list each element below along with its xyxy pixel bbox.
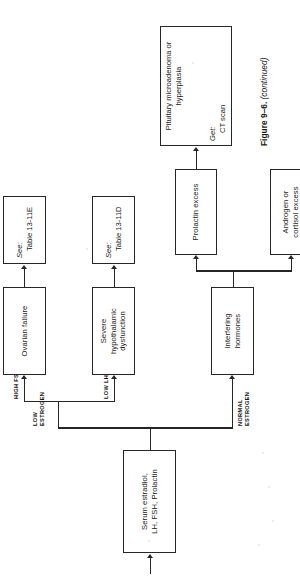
scan-artifact bbox=[192, 62, 194, 64]
ovarian-to-tableE-arrowhead bbox=[21, 265, 27, 269]
node-pituitary-get-value: CT scan bbox=[218, 105, 227, 141]
labs-out-stub bbox=[150, 428, 151, 450]
androgen-cortisol-connector bbox=[291, 258, 292, 272]
node-prolactin-excess-line1: Prolactin excess bbox=[191, 184, 201, 241]
node-interfering-hormones: Interfering hormones bbox=[211, 287, 254, 375]
low-lh-arrowhead bbox=[111, 375, 117, 379]
hypothalamic-to-tableD-connector bbox=[114, 268, 115, 287]
node-interfering-hormones-line1: Interfering bbox=[223, 313, 233, 348]
scan-artifact bbox=[24, 318, 26, 320]
figure-caption: Figure 9–6. (continued) bbox=[259, 58, 269, 146]
inbound-arrowhead bbox=[147, 554, 153, 558]
node-serum-labs-line1: Serum estradiol, bbox=[140, 473, 150, 530]
ref-table-13-11D-keyword: See: bbox=[104, 242, 114, 258]
node-serum-labs: Serum estradiol, LH, FSH, Prolactin bbox=[123, 450, 176, 553]
node-pituitary-line1: Pituitary microadenoma or bbox=[164, 42, 173, 131]
scan-artifact bbox=[148, 540, 150, 542]
ref-table-13-11D: See: Table 13-11D bbox=[92, 196, 135, 264]
ref-table-13-11D-value: Table 13-11D bbox=[114, 206, 124, 258]
prolactin-connector bbox=[196, 258, 197, 272]
edge-label-normal-estrogen-line2: ESTROGEN bbox=[244, 392, 250, 426]
flowchart-canvas: Serum estradiol, LH, FSH, Prolactin LOW … bbox=[0, 0, 300, 580]
interfering-split-vertical bbox=[196, 270, 292, 272]
node-pituitary-get: Get: CT scan bbox=[208, 31, 228, 141]
scan-artifact bbox=[86, 248, 88, 250]
high-fsh-connector bbox=[24, 378, 25, 403]
node-androgen-cortisol-excess-line2: cortisol excess bbox=[291, 186, 300, 237]
hypothalamic-to-tableD-arrowhead bbox=[111, 265, 117, 269]
rotated-figure-canvas: Serum estradiol, LH, FSH, Prolactin LOW … bbox=[0, 0, 300, 580]
edge-label-normal-estrogen: NORMAL ESTROGEN bbox=[237, 392, 251, 426]
prolactin-to-pituitary-arrowhead bbox=[193, 147, 199, 151]
edge-label-low-lh-text: LOW LH bbox=[103, 375, 109, 399]
scan-artifact bbox=[272, 520, 274, 522]
node-pituitary-line2: hyperplasia bbox=[174, 67, 183, 106]
ref-table-13-11E-value: Table 13-11E bbox=[25, 207, 35, 258]
edge-label-low-estrogen: LOW ESTROGEN bbox=[32, 392, 46, 426]
node-pituitary-microadenoma: Pituitary microadenoma or hyperplasia Ge… bbox=[160, 26, 232, 146]
scan-artifact bbox=[268, 486, 270, 488]
node-severe-hypothalamic-line1: Severe bbox=[99, 319, 109, 344]
node-ovarian-failure: Ovarian failure bbox=[3, 287, 46, 375]
node-interfering-hormones-line2: hormones bbox=[233, 314, 243, 349]
node-pituitary-get-keyword: Get: bbox=[208, 127, 217, 141]
node-severe-hypothalamic-dysfunction: Severe hypothalamic dysfunction bbox=[92, 287, 135, 375]
prolactin-arrowhead bbox=[193, 255, 199, 259]
node-severe-hypothalamic-line2: hypothalamic bbox=[109, 308, 119, 354]
edge-label-low-lh: LOW LH bbox=[103, 375, 110, 399]
androgen-cortisol-arrowhead bbox=[288, 255, 294, 259]
edge-label-low-estrogen-line2: ESTROGEN bbox=[39, 392, 45, 426]
ref-table-13-11E-keyword: See: bbox=[15, 242, 25, 258]
ref-table-13-11E: See: Table 13-11E bbox=[3, 196, 46, 264]
node-severe-hypothalamic-line3: dysfunction bbox=[118, 311, 128, 351]
edge-label-low-estrogen-line1: LOW bbox=[32, 412, 38, 426]
inbound-connector bbox=[150, 557, 151, 574]
node-androgen-cortisol-excess-line1: Androgen or bbox=[281, 191, 291, 234]
node-ovarian-failure-line1: Ovarian failure bbox=[20, 306, 30, 357]
prolactin-to-pituitary-connector bbox=[196, 150, 197, 169]
normal-estrogen-branch-line bbox=[232, 378, 233, 429]
interfering-out-stub bbox=[233, 271, 234, 287]
node-serum-labs-line2: LH, FSH, Prolactin bbox=[150, 469, 160, 534]
scan-artifact bbox=[258, 544, 260, 546]
node-prolactin-excess: Prolactin excess bbox=[175, 169, 217, 255]
low-lh-connector bbox=[114, 378, 115, 403]
scan-artifact bbox=[262, 452, 264, 454]
normal-estrogen-arrowhead bbox=[229, 375, 235, 379]
figure-caption-note: (continued) bbox=[259, 58, 269, 100]
node-pituitary-title: Pituitary microadenoma or hyperplasia bbox=[164, 31, 184, 141]
node-androgen-cortisol-excess: Androgen or cortisol excess bbox=[270, 169, 300, 255]
figure-caption-label: Figure 9–6. bbox=[259, 102, 269, 146]
ovarian-to-tableE-connector bbox=[24, 268, 25, 287]
high-fsh-arrowhead bbox=[21, 375, 27, 379]
edge-label-normal-estrogen-line1: NORMAL bbox=[237, 399, 243, 426]
main-vertical-spine bbox=[58, 427, 233, 429]
low-estrogen-branch-line bbox=[58, 402, 59, 429]
